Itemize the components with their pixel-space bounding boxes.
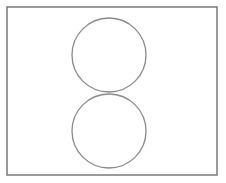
top-circle — [72, 18, 146, 92]
bottom-circle — [72, 94, 146, 168]
frame-rectangle — [7, 7, 217, 175]
diagram-canvas — [0, 0, 226, 183]
